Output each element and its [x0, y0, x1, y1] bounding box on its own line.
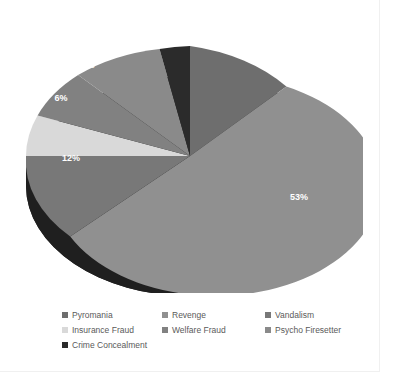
- legend-item-insurance-fraud[interactable]: Insurance Fraud: [62, 325, 162, 335]
- legend-swatch-icon: [265, 312, 271, 318]
- legend-swatch-icon: [162, 312, 168, 318]
- pie-label-welfare-fraud: 7%: [81, 60, 94, 70]
- legend-row: Pyromania Revenge Vandalism: [62, 310, 362, 320]
- legend-label: Revenge: [172, 310, 206, 320]
- legend-item-pyromania[interactable]: Pyromania: [62, 310, 162, 320]
- legend-label: Psycho Firesetter: [275, 325, 341, 335]
- pie-label-pyromania: 10%: [212, 33, 230, 43]
- legend-label: Crime Concealment: [72, 340, 147, 350]
- legend-row: Crime Concealment: [62, 340, 362, 350]
- pie-chart: 10% 53% 12% 6% 7% 9% 3%: [18, 8, 363, 293]
- legend-swatch-icon: [162, 327, 168, 333]
- legend-item-psycho-firesetter[interactable]: Psycho Firesetter: [265, 325, 341, 335]
- legend-label: Insurance Fraud: [72, 325, 134, 335]
- pie-label-psycho-firesetter: 9%: [123, 37, 136, 47]
- pie-chart-svg: 10% 53% 12% 6% 7% 9% 3%: [18, 8, 363, 293]
- pie-label-insurance-fraud: 6%: [54, 93, 67, 103]
- legend-swatch-icon: [62, 327, 68, 333]
- legend-item-vandalism[interactable]: Vandalism: [265, 310, 314, 320]
- chart-frame: 10% 53% 12% 6% 7% 9% 3% Pyromania Reveng…: [0, 0, 380, 372]
- pie-label-revenge: 53%: [290, 192, 308, 202]
- legend-item-revenge[interactable]: Revenge: [162, 310, 265, 320]
- legend-swatch-icon: [62, 312, 68, 318]
- legend-label: Pyromania: [72, 310, 113, 320]
- pie-label-vandalism: 12%: [62, 153, 80, 163]
- legend-swatch-icon: [265, 327, 271, 333]
- legend-swatch-icon: [62, 342, 68, 348]
- legend-label: Welfare Fraud: [172, 325, 226, 335]
- pie-label-crime-concealment: 3%: [168, 26, 181, 36]
- legend-row: Insurance Fraud Welfare Fraud Psycho Fir…: [62, 325, 362, 335]
- chart-legend: Pyromania Revenge Vandalism Insurance Fr…: [62, 310, 362, 355]
- legend-item-welfare-fraud[interactable]: Welfare Fraud: [162, 325, 265, 335]
- legend-item-crime-concealment[interactable]: Crime Concealment: [62, 340, 162, 350]
- legend-label: Vandalism: [275, 310, 314, 320]
